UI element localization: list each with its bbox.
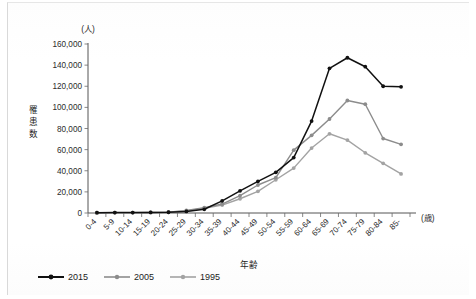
plot-area: 160,000140,000120,000100,00080,00060,000… (52, 40, 416, 238)
x-axis-unit-label: (歳) (421, 213, 435, 223)
legend-swatch-marker-2005 (115, 275, 119, 279)
data-point-2005-40-44 (238, 194, 242, 198)
data-point-2005-70-74 (345, 99, 349, 103)
x-tick-label: 50-54 (256, 217, 277, 238)
y-axis-title: 罹 患 数 (29, 105, 38, 139)
data-point-1995-55-59 (292, 166, 296, 170)
data-point-2015-5-9 (113, 211, 117, 215)
legend-item-1995[interactable]: 1995 (170, 272, 220, 282)
svg-text:患: 患 (29, 116, 38, 127)
x-axis-title: 年齢 (240, 259, 258, 270)
data-point-2005-65-69 (328, 117, 332, 121)
data-point-2005-75-79 (363, 102, 367, 106)
series-line-2015 (97, 58, 401, 213)
x-tick-label: 75-79 (346, 217, 367, 238)
legend-label-1995: 1995 (200, 272, 220, 282)
y-tick-label: 140,000 (52, 61, 82, 70)
chart-legend[interactable]: 201520051995 (38, 272, 220, 282)
y-tick-label: 80,000 (57, 125, 82, 134)
svg-text:数: 数 (29, 128, 38, 139)
incidence-by-age-line-chart: (人) 罹 患 数 160,000140,000120,000100,00080… (0, 0, 476, 299)
data-point-2015-0-4 (95, 211, 99, 215)
x-tick-label: 60-64 (292, 217, 313, 238)
svg-text:罹: 罹 (29, 105, 38, 115)
x-tick-label: 70-74 (328, 217, 349, 238)
y-tick-label: 120,000 (52, 82, 82, 91)
data-point-1995-80-84 (381, 161, 385, 165)
data-point-2005-85- (399, 142, 403, 146)
legend-label-2015: 2015 (68, 272, 88, 282)
data-point-2015-70-74 (345, 56, 349, 60)
data-point-1995-60-64 (310, 146, 314, 150)
x-tick-label: 40-44 (221, 217, 242, 238)
data-point-2015-65-69 (328, 66, 332, 70)
data-point-1995-70-74 (345, 138, 349, 142)
data-point-2005-80-84 (381, 137, 385, 141)
x-tick-label: 10-14 (113, 217, 134, 238)
y-tick-label: 160,000 (52, 40, 82, 49)
y-tick-label: 0 (77, 209, 82, 218)
y-tick-label: 40,000 (57, 167, 82, 176)
y-tick-label: 100,000 (52, 103, 82, 112)
data-point-2015-15-19 (149, 211, 153, 215)
data-point-2015-50-54 (274, 170, 278, 174)
legend-swatch-marker-1995 (181, 275, 185, 279)
data-point-1995-65-69 (328, 132, 332, 136)
x-tick-label: 85- (388, 217, 403, 232)
y-tick-label: 20,000 (57, 188, 82, 197)
data-point-2015-20-24 (167, 210, 171, 214)
data-point-2015-55-59 (292, 156, 296, 160)
x-tick-label: 25-29 (167, 217, 188, 238)
data-point-2005-60-64 (310, 133, 314, 137)
x-tick-label: 80-84 (364, 217, 385, 238)
x-tick-label: 45-49 (239, 217, 260, 238)
x-tick-label: 20-24 (149, 217, 170, 238)
data-point-2015-75-79 (363, 65, 367, 69)
x-tick-label: 65-69 (310, 217, 331, 238)
data-point-1995-75-79 (363, 151, 367, 155)
data-point-2015-80-84 (381, 84, 385, 88)
data-point-1995-45-49 (256, 189, 260, 193)
chart-svg: (人) 罹 患 数 160,000140,000120,000100,00080… (0, 0, 476, 299)
data-point-2005-45-49 (256, 183, 260, 187)
y-axis-unit-label: (人) (81, 24, 95, 34)
x-tick-label: 15-19 (131, 217, 152, 238)
data-point-2015-10-14 (131, 211, 135, 215)
x-tick-label: 30-34 (185, 217, 206, 238)
data-point-2015-35-39 (220, 199, 224, 203)
legend-label-2005: 2005 (134, 272, 154, 282)
series-1995 (95, 132, 403, 215)
legend-swatch-marker-2015 (49, 275, 54, 280)
data-point-2015-40-44 (238, 189, 242, 193)
data-point-2015-60-64 (310, 119, 314, 123)
legend-item-2005[interactable]: 2005 (104, 272, 154, 282)
data-point-2015-30-34 (202, 207, 206, 211)
x-tick-label: 55-59 (274, 217, 295, 238)
y-tick-label: 60,000 (57, 146, 82, 155)
series-2005 (95, 99, 403, 215)
legend-item-2015[interactable]: 2015 (38, 272, 88, 282)
x-tick-label: 35-39 (203, 217, 224, 238)
data-point-2005-50-54 (274, 176, 278, 180)
data-point-2005-55-59 (292, 148, 296, 152)
data-point-2015-45-49 (256, 179, 260, 183)
data-point-2015-85- (399, 85, 403, 89)
series-line-1995 (97, 134, 401, 213)
x-tick-label: 0-4 (84, 217, 99, 232)
data-point-2015-25-29 (184, 210, 188, 214)
series-line-2005 (97, 101, 401, 213)
data-point-1995-85- (399, 172, 403, 176)
